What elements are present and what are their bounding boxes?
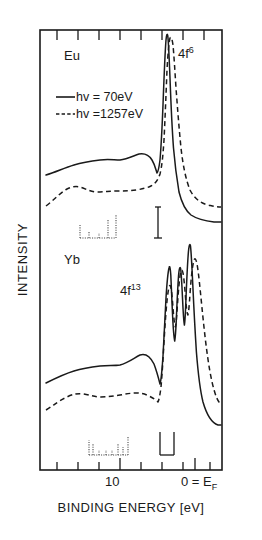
bottom-axis-ticks <box>57 458 210 470</box>
stick-spectrum-eu-dotted <box>80 215 116 238</box>
y-axis-label: INTENSITY <box>15 200 30 320</box>
stick-marker-yb-doublet <box>160 432 174 455</box>
x-tick-label-zero-ef: 0 = EF <box>181 474 217 492</box>
stick-marker-eu-main <box>154 207 162 238</box>
panel-label-yb: Yb <box>64 252 80 267</box>
panel-label-eu: Eu <box>64 48 80 63</box>
spectra-figure: INTENSITY BINDING ENERGY [eV] 10 0 = EF … <box>0 0 262 540</box>
curve-yb-solid <box>46 245 221 425</box>
top-axis-ticks <box>57 30 204 40</box>
spectra-svg <box>0 0 262 540</box>
panel-config-eu: 4f6 <box>178 45 194 61</box>
panel-config-yb: 4f13 <box>120 282 141 298</box>
x-axis-label: BINDING ENERGY [eV] <box>0 500 262 515</box>
x-tick-label-10: 10 <box>105 474 119 489</box>
legend-entry-dashed: hv =1257eV <box>76 107 143 121</box>
stick-spectrum-yb-dotted <box>89 437 128 455</box>
legend-entry-solid: hv = 70eV <box>76 90 133 104</box>
